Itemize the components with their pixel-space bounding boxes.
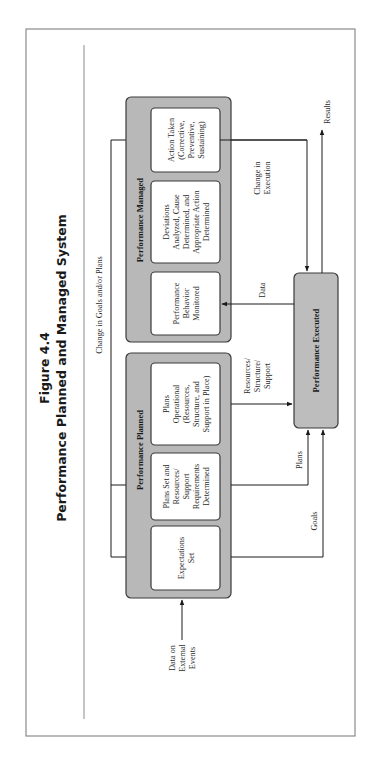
figure-title: Performance Planned and Managed System <box>54 214 69 522</box>
svg-text:Set: Set <box>187 552 196 563</box>
svg-text:Events: Events <box>188 647 197 669</box>
label-performance-executed: Performance Executed <box>311 308 321 392</box>
svg-text:Requirements: Requirements <box>192 464 201 509</box>
svg-text:Behavior: Behavior <box>182 288 191 318</box>
svg-text:Data on: Data on <box>168 645 177 671</box>
svg-text:Structure/: Structure/ <box>253 359 262 392</box>
resources-label: Resources/ Structure/ Support <box>243 357 272 394</box>
group-label-planned: Performance Planned <box>135 410 145 490</box>
plans-label: Plans <box>295 451 304 469</box>
figure-number: Figure 4.4 <box>37 332 52 404</box>
step-action-taken-text: Action Taken (Corrective, Preventive, Su… <box>167 118 206 162</box>
goals-label: Goals <box>310 511 319 530</box>
svg-text:Sustaining): Sustaining) <box>197 121 206 159</box>
data-label: Data <box>258 282 267 298</box>
svg-text:Determined: Determined <box>202 467 211 506</box>
group-label-managed: Performance Managed <box>135 178 145 262</box>
svg-text:Determined: Determined <box>202 203 211 242</box>
svg-text:Deviations: Deviations <box>162 204 171 239</box>
svg-text:Monitored: Monitored <box>192 286 201 321</box>
figure-title-block: Figure 4.4 Performance Planned and Manag… <box>37 214 69 522</box>
svg-text:Plans: Plans <box>162 395 171 413</box>
svg-text:Determined, and: Determined, and <box>182 195 191 250</box>
step-expectations-set <box>151 526 220 590</box>
svg-text:Structure, and: Structure, and <box>192 381 201 427</box>
svg-text:(Corrective,: (Corrective, <box>177 120 186 159</box>
change-execution-arrow <box>220 140 307 271</box>
change-execution-label: Change in Execution <box>253 161 272 194</box>
svg-text:Action Taken: Action Taken <box>167 118 176 162</box>
svg-text:Execution: Execution <box>263 161 272 194</box>
feedback-label-group: Change in Goals and/or Plans <box>95 256 104 353</box>
feedback-label: Change in Goals and/or Plans <box>95 256 104 353</box>
diagram-canvas: Figure 4.4 Performance Planned and Manag… <box>0 0 381 769</box>
svg-text:External: External <box>178 643 187 671</box>
svg-text:Resources/: Resources/ <box>243 357 252 394</box>
svg-text:Support: Support <box>182 473 191 500</box>
svg-text:Preventive,: Preventive, <box>187 121 196 158</box>
svg-text:(Resources,: (Resources, <box>182 385 191 423</box>
goals-arrow <box>231 430 323 557</box>
external-events-label: Data on External Events <box>168 643 197 671</box>
svg-text:Plans Set and: Plans Set and <box>162 464 171 508</box>
results-label: Results <box>323 100 332 124</box>
step-behavior-monitored-text: Performance Behavior Monitored <box>172 282 201 324</box>
svg-text:Performance: Performance <box>172 282 181 324</box>
svg-text:Support: Support <box>263 362 272 389</box>
svg-text:Change in: Change in <box>253 161 262 194</box>
svg-text:Expectations: Expectations <box>177 537 186 579</box>
svg-text:Analyzed, Cause: Analyzed, Cause <box>172 194 181 250</box>
svg-text:Appropriate Action: Appropriate Action <box>192 190 201 253</box>
svg-text:Operational: Operational <box>172 384 181 423</box>
step-action-taken <box>151 108 220 172</box>
svg-text:Support in Place): Support in Place) <box>202 375 211 432</box>
svg-text:Resources/: Resources/ <box>172 468 181 505</box>
